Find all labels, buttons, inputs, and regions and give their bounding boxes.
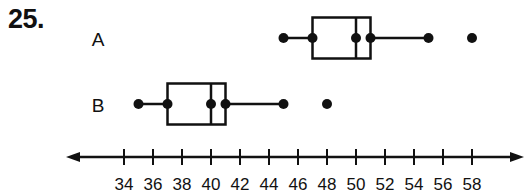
data-point xyxy=(322,99,332,109)
tick-label: 34 xyxy=(115,175,134,194)
data-point xyxy=(351,33,361,43)
tick-label: 46 xyxy=(289,175,308,194)
series-label: A xyxy=(92,29,105,50)
data-point xyxy=(134,99,144,109)
data-point xyxy=(279,33,289,43)
tick-label: 36 xyxy=(144,175,163,194)
box-plot-chart: AB 34363840424446485052545658 xyxy=(0,0,529,195)
data-point xyxy=(206,99,216,109)
tick-label: 38 xyxy=(173,175,192,194)
right-arrow-icon xyxy=(510,152,524,162)
data-point xyxy=(366,33,376,43)
data-point xyxy=(279,99,289,109)
data-point xyxy=(467,33,477,43)
tick-label: 50 xyxy=(347,175,366,194)
iqr-box xyxy=(313,18,371,59)
tick-label: 44 xyxy=(260,175,279,194)
series-label: B xyxy=(92,95,105,116)
box-plot-b: B xyxy=(92,84,332,125)
data-point xyxy=(221,99,231,109)
tick-label: 56 xyxy=(434,175,453,194)
data-point xyxy=(163,99,173,109)
tick-label: 40 xyxy=(202,175,221,194)
tick-label: 48 xyxy=(318,175,337,194)
data-point xyxy=(308,33,318,43)
iqr-box xyxy=(168,84,226,125)
box-plot-a: A xyxy=(92,18,477,59)
number-line-axis: 34363840424446485052545658 xyxy=(66,149,524,194)
tick-label: 42 xyxy=(231,175,250,194)
left-arrow-icon xyxy=(66,152,80,162)
data-point xyxy=(424,33,434,43)
tick-label: 58 xyxy=(463,175,482,194)
tick-label: 52 xyxy=(376,175,395,194)
tick-label: 54 xyxy=(405,175,424,194)
box-plots: AB xyxy=(92,18,477,125)
